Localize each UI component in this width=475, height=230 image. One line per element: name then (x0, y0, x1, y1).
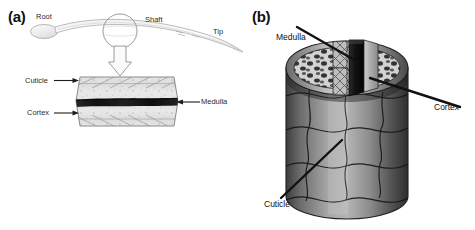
label-cortex-a: Cortex (27, 109, 49, 117)
hair-shaft-body (55, 19, 243, 53)
hair-bulb (31, 25, 58, 39)
panel-a-illustration (0, 0, 250, 140)
cylinder-cutaway (286, 40, 408, 102)
label-medulla-b: Medulla (276, 33, 306, 42)
magnification-circle (103, 14, 137, 48)
cuticle-arrow-a (54, 78, 79, 83)
hair-longitudinal-section (74, 76, 180, 128)
label-root: Root (36, 13, 52, 21)
hair-structure-figure: (a) (0, 0, 475, 230)
medulla-arrow-a (176, 100, 200, 105)
magnify-arrow-icon (109, 46, 132, 76)
label-cuticle-b: Cuticle (264, 200, 290, 209)
label-cortex-b: Cortex (434, 103, 459, 112)
label-cuticle-a: Cuticle (25, 77, 48, 85)
label-tip: Tip (213, 28, 223, 36)
label-medulla-a: Medulla (201, 98, 227, 106)
cortex-arrow-a (54, 111, 79, 116)
label-shaft: Shaft (145, 16, 163, 24)
